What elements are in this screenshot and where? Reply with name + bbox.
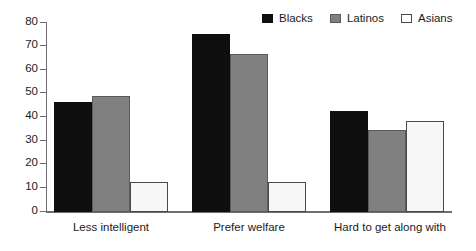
bar-less-intelligent-asians — [130, 182, 168, 212]
y-tick-60 — [40, 69, 46, 70]
y-tick-20 — [40, 163, 46, 164]
y-tick-label-30: 30 — [4, 134, 38, 146]
legend-item-asians: Asians — [401, 13, 453, 25]
y-tick-50 — [40, 92, 46, 93]
bar-hard-to-get-along-with-blacks — [330, 111, 368, 212]
category-label-hard-to-get-along-with: Hard to get along with — [307, 222, 473, 234]
legend-swatch-blacks-icon — [262, 14, 273, 23]
y-tick-label-40: 40 — [4, 110, 38, 122]
y-tick-label-80: 80 — [4, 16, 38, 28]
chart-legend: Blacks Latinos Asians — [262, 13, 453, 25]
y-tick-0 — [40, 211, 46, 212]
y-tick-label-60-wrap: 60 — [0, 63, 38, 75]
bar-less-intelligent-blacks — [54, 102, 92, 212]
y-tick-label-30-wrap: 30 — [0, 134, 38, 146]
y-tick-label-20-wrap: 20 — [0, 157, 38, 169]
y-tick-label-70-wrap: 70 — [0, 39, 38, 51]
y-tick-label-10-wrap: 10 — [0, 181, 38, 193]
bar-prefer-welfare-asians — [268, 182, 306, 212]
y-tick-label-80-wrap: 80 — [0, 16, 38, 28]
y-tick-label-0: 0 — [4, 205, 38, 217]
legend-swatch-latinos-icon — [330, 14, 341, 23]
plot-area: 80 70 60 50 40 30 20 10 — [0, 0, 476, 251]
y-tick-10 — [40, 187, 46, 188]
category-label-prefer-welfare: Prefer welfare — [179, 222, 319, 234]
bar-chart: 80 70 60 50 40 30 20 10 — [0, 0, 476, 251]
y-tick-label-50-wrap: 50 — [0, 86, 38, 98]
y-tick-80 — [40, 22, 46, 23]
category-label-less-intelligent: Less intelligent — [41, 222, 181, 234]
y-tick-label-40-wrap: 40 — [0, 110, 38, 122]
y-tick-40 — [40, 116, 46, 117]
y-axis-line — [46, 22, 47, 212]
y-tick-label-0-wrap: 0 — [0, 205, 38, 217]
y-tick-70 — [40, 45, 46, 46]
y-tick-label-20: 20 — [4, 157, 38, 169]
bar-hard-to-get-along-with-asians — [406, 121, 444, 212]
legend-item-blacks: Blacks — [262, 13, 313, 25]
bar-less-intelligent-latinos — [92, 96, 130, 212]
y-tick-label-10: 10 — [4, 181, 38, 193]
legend-label-asians: Asians — [418, 13, 453, 25]
y-tick-label-60: 60 — [4, 63, 38, 75]
y-tick-label-70: 70 — [4, 39, 38, 51]
legend-label-blacks: Blacks — [279, 13, 313, 25]
bar-prefer-welfare-latinos — [230, 54, 268, 212]
legend-label-latinos: Latinos — [347, 13, 384, 25]
legend-swatch-asians-icon — [401, 14, 412, 23]
y-tick-label-50: 50 — [4, 86, 38, 98]
bar-hard-to-get-along-with-latinos — [368, 130, 406, 212]
y-tick-30 — [40, 140, 46, 141]
bar-prefer-welfare-blacks — [192, 34, 230, 212]
legend-item-latinos: Latinos — [330, 13, 384, 25]
